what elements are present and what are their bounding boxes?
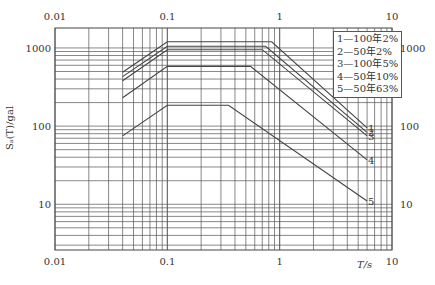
x-tick-bottom: 10 (386, 256, 399, 267)
y-tick-right: 100 (400, 121, 419, 132)
y-tick-right: 10 (400, 199, 413, 210)
y-tick-left: 100 (32, 121, 51, 132)
legend-item-4: 4—50年10% (337, 71, 398, 84)
curve-2 (123, 46, 368, 132)
y-tick-left: 1000 (26, 43, 51, 54)
y-tick-left: 10 (38, 199, 51, 210)
legend-item-2: 2—50年2% (337, 46, 398, 59)
curve-4 (123, 66, 368, 159)
y-tick-right: 1000 (400, 43, 425, 54)
legend-item-5: 5—50年63% (337, 83, 398, 96)
curve-label-3: 3 (368, 131, 374, 142)
curve-5 (123, 105, 368, 201)
x-tick-bottom: 0.01 (44, 256, 66, 267)
x-tick-bottom: 1 (276, 256, 282, 267)
x-tick-bottom: 0.1 (159, 256, 175, 267)
legend-item-3: 3—100年5% (337, 58, 398, 71)
x-axis-label: T/s (357, 259, 372, 270)
x-tick-top: 1 (276, 11, 282, 22)
x-tick-top: 10 (386, 11, 399, 22)
curve-label-4: 4 (368, 155, 374, 166)
x-tick-top: 0.1 (159, 11, 175, 22)
legend-item-1: 1—100年2% (337, 33, 398, 46)
legend: 1—100年2% 2—50年2% 3—100年5% 4—50年10% 5—50年… (333, 31, 402, 98)
curve-3 (123, 50, 368, 136)
x-tick-top: 0.01 (44, 11, 66, 22)
y-axis-label: Sₐ(T)/gal (4, 106, 15, 150)
curve-label-5: 5 (368, 196, 374, 207)
